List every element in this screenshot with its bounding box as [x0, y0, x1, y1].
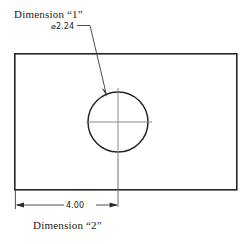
technical-drawing-page: Dimension “1” ⌀2.24 4.00 Dimension “2” — [0, 0, 249, 244]
drawing-canvas: Dimension “1” ⌀2.24 4.00 Dimension “2” — [0, 0, 249, 244]
leader-diagonal-line — [90, 26, 106, 94]
width-dimension-value: 4.00 — [66, 201, 84, 210]
width-dimension-label: Dimension “2” — [33, 219, 102, 231]
dimension-arrowhead-right — [110, 202, 118, 207]
hole-dimension-label: Dimension “1” — [14, 8, 83, 20]
dimension-arrowhead-left — [16, 202, 24, 207]
hole-diameter-callout: ⌀2.24 — [51, 22, 74, 31]
